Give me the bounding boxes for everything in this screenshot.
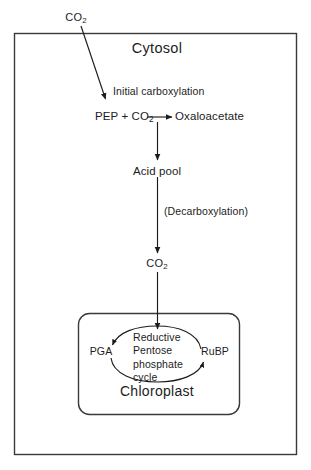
pathway-connector-layer — [0, 0, 311, 470]
cycle-label-reductive-pentose-phosphate: Reductive Pentose phosphate cycle — [133, 331, 183, 385]
node-pga: PGA — [90, 346, 112, 357]
compartment-label-chloroplast: Chloroplast — [120, 384, 194, 399]
process-label-initial-carboxylation: Initial carboxylation — [113, 86, 204, 97]
node-pep-pool: PEP + CO2 — [95, 110, 154, 125]
cycle-label-line-2: Pentose — [133, 344, 183, 357]
co2-released-subscript: 2 — [163, 262, 167, 271]
node-oxaloacetate: Oxaloacetate — [175, 110, 244, 122]
pep-co2-subscript: 2 — [149, 115, 154, 124]
arrow-co2-to-pep — [81, 26, 106, 99]
node-rubp: RuBP — [201, 346, 229, 357]
cycle-label-line-1: Reductive — [133, 331, 183, 344]
node-co2-released: CO2 — [146, 258, 167, 272]
compartment-label-cytosol: Cytosol — [132, 41, 182, 56]
node-acid-pool: Acid pool — [133, 165, 181, 177]
node-co2-external: CO2 — [65, 12, 86, 26]
process-label-decarboxylation: (Decarboxylation) — [164, 206, 248, 217]
co2-subscript: 2 — [82, 16, 86, 25]
pathway-diagram: CO2 Cytosol Initial carboxylation PEP + … — [0, 0, 311, 470]
cycle-label-line-3: phosphate — [133, 358, 183, 371]
